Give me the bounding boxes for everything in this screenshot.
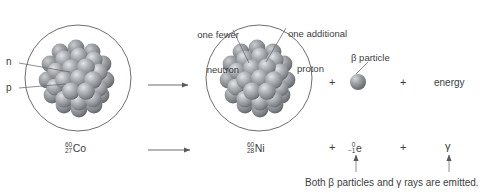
beta-atomic-number: −1 (348, 148, 355, 154)
top-plus-2: + (400, 76, 406, 88)
proton-leader-line (19, 84, 66, 88)
one-fewer-neutron-line-2: neutron (163, 64, 239, 76)
top-plus-1: + (329, 76, 335, 88)
one-additional-proton-line-1: one additional (288, 28, 378, 40)
beta-decay-diagram: n p one fewer neutron one additional pro… (0, 0, 494, 193)
diagram-artwork (0, 0, 494, 193)
nickel-numbers: 60 28 (247, 142, 254, 154)
beta-symbol: e (356, 142, 362, 154)
cobalt-60-nuclide: 60 27 Co (65, 141, 86, 154)
footnote-text: Both β particles and γ rays are emitted. (305, 177, 479, 188)
beta-particle-callout: β particle (351, 52, 390, 64)
neutron-label: n (6, 56, 12, 67)
one-additional-proton-line-2: proton (288, 63, 378, 75)
energy-label: energy (434, 77, 465, 88)
cobalt-symbol: Co (73, 142, 86, 154)
neutron-leader-line (19, 63, 70, 72)
cobalt-numbers: 60 27 (65, 142, 72, 154)
proton-label: p (6, 82, 12, 93)
cobalt-electron-shell-circle (25, 25, 131, 131)
nickel-symbol: Ni (255, 142, 265, 154)
gamma-symbol: γ (445, 140, 451, 152)
cobalt-atomic-number: 27 (65, 148, 72, 154)
nickel-atomic-number: 28 (247, 148, 254, 154)
one-fewer-neutron-line-1: one fewer (163, 29, 239, 41)
nickel-60-nuclide: 60 28 Ni (247, 141, 265, 154)
beta-numbers: 0 −1 (348, 142, 355, 154)
one-additional-proton-leader-line (266, 28, 286, 62)
bottom-plus-1: + (329, 141, 335, 153)
beta-particle-nuclide: 0 −1 e (348, 141, 362, 154)
cobalt-nucleus-cluster (39, 40, 115, 118)
bottom-plus-2: + (400, 141, 406, 153)
one-fewer-neutron-callout: one fewer neutron (163, 6, 239, 98)
